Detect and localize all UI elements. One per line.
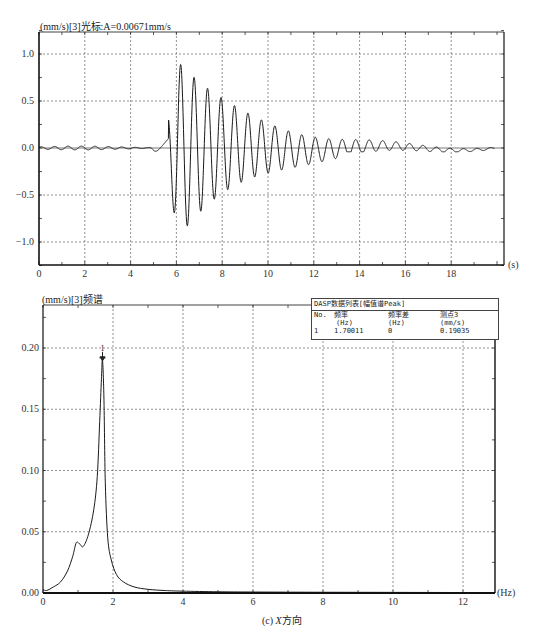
x-tick-label: 0 — [31, 596, 55, 607]
spectrum-curve — [43, 360, 491, 593]
x-tick-label: 12 — [451, 596, 475, 607]
peak-marker-label: 1 — [101, 344, 105, 353]
x-tick-label: 8 — [311, 596, 335, 607]
x-tick-label: 4 — [171, 596, 195, 607]
caption-prefix: (c) — [262, 615, 276, 626]
x-tick-label: 10 — [381, 596, 405, 607]
cell-frequency: 1.70011 — [334, 327, 364, 335]
caption-suffix: 方向 — [282, 615, 302, 626]
cell-amplitude: 0.19035 — [440, 327, 470, 335]
column-header-frequency-diff: 频率差 — [388, 311, 409, 319]
peak-data-table: DASP数据列表[幅值谱Peak] No. 频率 频率差 测点3 (Hz) (H… — [311, 298, 499, 340]
column-header-no: No. — [314, 311, 327, 319]
x-tick-label: 2 — [101, 596, 125, 607]
y-tick-label: 0.15 — [9, 403, 39, 414]
column-unit-point3: (mm/s) — [440, 319, 465, 327]
cell-no: 1 — [314, 327, 318, 335]
spectrum-grid — [43, 305, 495, 593]
figure: (mm/s)[3]光标:A=0.00671mm/s 1.00.50.0−0.5−… — [0, 0, 533, 634]
y-tick-label: 0.10 — [9, 465, 39, 476]
spectrum-x-unit: (Hz) — [497, 587, 515, 598]
peak-table-header-row: No. 频率 频率差 测点3 — [312, 311, 498, 319]
figure-caption: (c) X方向 — [262, 612, 302, 627]
y-tick-label: 0.20 — [9, 342, 39, 353]
x-tick-label: 6 — [241, 596, 265, 607]
peak-table-unit-row: (Hz) (Hz) (mm/s) — [312, 319, 498, 327]
y-tick-label: 0.05 — [9, 526, 39, 537]
column-unit-frequency-diff: (Hz) — [388, 319, 405, 327]
cell-frequency-diff: 0 — [388, 327, 392, 335]
peak-marker-icon — [100, 352, 106, 362]
column-unit-frequency: (Hz) — [336, 319, 353, 327]
peak-table-row: 1 1.70011 0 0.19035 — [312, 327, 498, 335]
column-header-point3: 测点3 — [440, 311, 458, 319]
peak-table-title: DASP数据列表[幅值谱Peak] — [312, 299, 498, 311]
spectrum-title: (mm/s)[3]频谱 — [42, 291, 103, 306]
column-header-frequency: 频率 — [334, 311, 348, 319]
